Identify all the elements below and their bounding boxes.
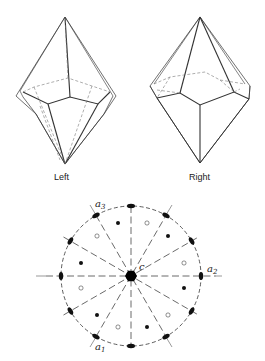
open-dot-icon (182, 261, 186, 265)
right-crystal (150, 17, 250, 163)
filled-dot-icon (182, 286, 186, 290)
open-dot-icon (166, 313, 170, 317)
lozenge-icon (127, 344, 135, 348)
lozenge-icon (59, 272, 63, 280)
lozenge-icon (91, 333, 100, 341)
lozenge-icon (91, 211, 100, 219)
figure-canvas: Left Right (0, 0, 265, 361)
axis-label-a2: a2 (207, 263, 218, 276)
left-crystal (16, 17, 116, 164)
lozenge-icon (188, 236, 196, 245)
lozenge-icon (66, 236, 74, 245)
open-dot-icon (116, 325, 120, 329)
filled-dot-icon (116, 221, 120, 225)
lozenge-icon (188, 306, 196, 315)
axis-label-a3: a3 (95, 198, 106, 211)
lozenge-icon (161, 333, 170, 341)
lozenge-icon (66, 306, 74, 315)
axis-label-a1: a1 (95, 341, 105, 354)
filled-dot-icon (166, 234, 170, 238)
right-label: Right (189, 172, 211, 182)
sixfold-center-dot (126, 271, 136, 281)
stereogram: c a2 a3 a1 (36, 198, 222, 354)
lozenge-icon (127, 204, 135, 208)
filled-dot-icon (79, 261, 83, 265)
lozenge-icon (199, 272, 203, 280)
lozenge-icon (161, 211, 170, 219)
filled-dot-icon (145, 325, 149, 329)
filled-dot-icon (95, 313, 99, 317)
open-dot-icon (79, 286, 83, 290)
axis-label-c: c (139, 261, 145, 272)
open-dot-icon (95, 234, 99, 238)
left-label: Left (54, 172, 70, 182)
open-dot-icon (145, 221, 149, 225)
